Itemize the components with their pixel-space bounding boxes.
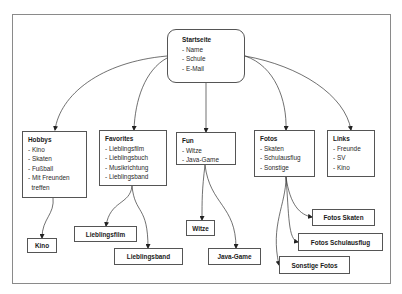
node-fotos: Fotos - Skaten - Schulausflug - Sonstige	[254, 130, 315, 177]
node-title: Links	[333, 134, 370, 144]
node-item: - Skaten	[260, 144, 310, 154]
leaf-label: Fotos Schulausflug	[311, 239, 370, 246]
node-title: Fun	[182, 136, 231, 146]
edge-root-fotos	[245, 56, 286, 130]
node-item: - Mit Freunden	[28, 173, 82, 183]
leaf-label: Java-Game	[217, 253, 251, 260]
leaf-label: Kino	[35, 242, 49, 249]
node-item: - Witze	[182, 146, 231, 156]
node-item: - Schule	[182, 54, 240, 64]
node-item: - Fußball	[28, 164, 82, 174]
leaf-label: Fotos Skaten	[323, 214, 363, 221]
node-title: Hobbys	[28, 135, 82, 145]
edge-root-favorites	[134, 58, 167, 130]
edge-favorites-lieblingsfilm	[106, 186, 132, 226]
node-startseite: Startseite - Name - Schule - E-Mail	[167, 29, 245, 83]
edge-root-hobbys	[55, 56, 167, 130]
leaf-kino: Kino	[27, 238, 57, 253]
edge-fun-witze	[202, 165, 205, 220]
node-title: Fotos	[260, 134, 310, 144]
edge-root-links	[245, 56, 351, 130]
leaf-sonstige-fotos: Sonstige Fotos	[279, 256, 350, 274]
node-item: - Name	[182, 45, 240, 55]
node-item: - Schulausflug	[260, 153, 310, 163]
leaf-fotos-schulausflug: Fotos Schulausflug	[298, 233, 383, 251]
edge-hobbys-kino	[42, 197, 53, 238]
node-item: - Skaten	[28, 154, 82, 164]
edge-fotos-skaten	[286, 177, 312, 217]
node-links: Links - Freunde - SV - Kino	[327, 130, 375, 177]
node-item: - Lieblingsfilm	[105, 144, 162, 154]
node-item: - Musikrichtung	[105, 163, 162, 173]
leaf-label: Sonstige Fotos	[291, 262, 337, 269]
leaf-label: Lieblingsband	[127, 253, 170, 260]
leaf-lieblingsband: Lieblingsband	[114, 248, 183, 265]
leaf-java-game: Java-Game	[208, 248, 261, 265]
node-favorites: Favorites - Lieblingsfilm - Lieblingsbuc…	[99, 130, 167, 186]
node-item: - Java-Game	[182, 155, 231, 165]
node-hobbys: Hobbys - Kino - Skaten - Fußball - Mit F…	[22, 131, 87, 198]
node-item: treffen	[28, 183, 82, 193]
leaf-fotos-skaten: Fotos Skaten	[312, 209, 375, 226]
node-item: - Kino	[28, 145, 82, 155]
node-item: - Sonstige	[260, 163, 310, 173]
leaf-lieblingsfilm: Lieblingsfilm	[74, 226, 137, 242]
node-item: - Lieblingsbuch	[105, 153, 162, 163]
leaf-witze: Witze	[186, 220, 215, 236]
node-fun: Fun - Witze - Java-Game	[176, 132, 236, 165]
leaf-label: Witze	[192, 225, 209, 232]
node-item: - Kino	[333, 163, 370, 173]
node-item: - Lieblingsband	[105, 172, 162, 182]
node-title: Favorites	[105, 134, 162, 144]
node-item: - Freunde	[333, 144, 370, 154]
edge-fotos-sonstige	[276, 177, 286, 265]
node-title: Startseite	[182, 35, 240, 45]
leaf-label: Lieblingsfilm	[86, 231, 125, 238]
node-item: - SV	[333, 153, 370, 163]
node-item: - E-Mail	[182, 64, 240, 74]
